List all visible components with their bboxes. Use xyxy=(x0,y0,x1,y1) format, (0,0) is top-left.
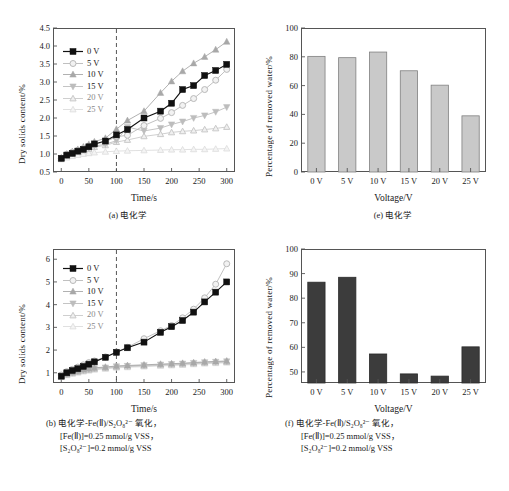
panel-f-electrochemical-fenton-bars: Percentage of removed water/% Voltage/V … xyxy=(255,237,509,491)
legend-marker-10v-icon xyxy=(62,286,84,297)
panel-e-electrochemical-bars: Percentage of removed water/% Voltage/V … xyxy=(255,0,509,225)
panel-e-ytick: 40 xyxy=(275,109,298,119)
legend-marker-0v-icon xyxy=(62,263,84,274)
panel-f-ytick: 100 xyxy=(275,244,298,254)
caption-line: [S₂O₈²⁻]=0.2 mmol/g VSS xyxy=(46,442,162,455)
panel-b-xtick: 50 xyxy=(85,387,94,397)
panel-b-ytick: 4 xyxy=(26,300,50,310)
panel-a-xtick: 200 xyxy=(165,176,178,186)
legend-item: 15 V xyxy=(62,81,104,93)
panel-f-xtick: 20 V xyxy=(431,387,448,397)
caption-line: [Fe(Ⅱ)]=0.25 mmol/g VSS， xyxy=(285,430,400,443)
panel-f-ytick: 90 xyxy=(275,269,298,279)
panel-e-xlabel: Voltage/V xyxy=(301,193,486,203)
caption-line: [Fe(Ⅱ)]=0.25 mmol/g VSS， xyxy=(46,430,162,443)
panel-a-ytick: 3.5 xyxy=(26,59,50,69)
panel-b-xtick: 200 xyxy=(165,387,178,397)
panel-f-ytick: 80 xyxy=(275,293,298,303)
panel-f-ytick: 50 xyxy=(275,367,298,377)
panel-e-xtick: 20 V xyxy=(431,176,448,186)
panel-b-xtick: 300 xyxy=(220,387,233,397)
panel-b-ytick: 5 xyxy=(26,277,50,287)
panel-a-ytick: 2.0 xyxy=(26,113,50,123)
panel-b-xlabel: Time/s xyxy=(53,404,235,414)
legend-marker-20v-icon xyxy=(62,310,84,321)
legend-item: 25 V xyxy=(62,104,104,116)
panel-f-ytick: 70 xyxy=(275,318,298,328)
legend-marker-5v-icon xyxy=(62,275,84,286)
panel-a-ytick: 1.0 xyxy=(26,149,50,159)
legend-item: 20 V xyxy=(62,92,104,104)
panel-e-xtick: 15 V xyxy=(401,176,418,186)
panel-a-ytick: 3.0 xyxy=(26,77,50,87)
legend-marker-5v-icon xyxy=(62,58,84,69)
panel-e-xtick: 25 V xyxy=(462,176,479,186)
legend-label: 10 V xyxy=(87,69,104,81)
legend-label: 5 V xyxy=(87,58,99,70)
panel-a-ytick: 0.5 xyxy=(26,167,50,177)
caption-line: [S₂O₈²⁻]=0.2 mmol/g VSS xyxy=(285,442,400,455)
panel-b-xtick: 100 xyxy=(110,387,123,397)
panel-a-xlabel: Time/s xyxy=(53,193,235,203)
legend-label: 20 V xyxy=(87,92,104,104)
legend-marker-15v-icon xyxy=(62,298,84,309)
panel-f-xtick: 15 V xyxy=(401,387,418,397)
panel-a-xtick: 150 xyxy=(138,176,151,186)
panel-a-xtick: 300 xyxy=(220,176,233,186)
panel-b-xtick: 0 xyxy=(59,387,63,397)
legend-label: 10 V xyxy=(87,286,104,298)
legend-label: 5 V xyxy=(87,275,99,287)
panel-a-electrochemical: Dry solids content/% 0 V5 V10 V15 V20 V2… xyxy=(0,0,255,225)
legend-marker-15v-icon xyxy=(62,81,84,92)
panel-a-xtick: 0 xyxy=(59,176,63,186)
panel-f-ytick: 60 xyxy=(275,342,298,352)
panel-f-xtick: 5 V xyxy=(341,387,353,397)
legend-item: 0 V xyxy=(62,263,104,275)
panel-b-xtick: 250 xyxy=(193,387,206,397)
panel-a-ytick: 4.0 xyxy=(26,41,50,51)
panel-a-legend: 0 V5 V10 V15 V20 V25 V xyxy=(62,46,104,116)
panel-b-legend: 0 V5 V10 V15 V20 V25 V xyxy=(62,263,104,333)
legend-marker-25v-icon xyxy=(62,104,84,115)
panel-a-xtick: 250 xyxy=(193,176,206,186)
panel-e-ytick: 20 xyxy=(275,138,298,148)
legend-marker-0v-icon xyxy=(62,46,84,57)
panel-a-caption: (a) 电化学 xyxy=(28,209,228,222)
panel-b-caption: (b) 电化学-Fe(Ⅱ)/S₂O₈²⁻ 氧化，[Fe(Ⅱ)]=0.25 mmo… xyxy=(46,417,162,455)
panel-e-ytick: 0 xyxy=(275,167,298,177)
panel-b-electrochemical-fenton: Dry solids content/% 0 V5 V10 V15 V20 V2… xyxy=(0,237,255,491)
panel-a-ytick: 4.5 xyxy=(26,23,50,33)
legend-label: 0 V xyxy=(87,46,99,58)
legend-label: 15 V xyxy=(87,81,104,93)
legend-marker-20v-icon xyxy=(62,93,84,104)
panel-e-caption: (e) 电化学 xyxy=(293,209,493,222)
panel-e-xtick: 0 V xyxy=(310,176,322,186)
panel-e-ytick: 60 xyxy=(275,81,298,91)
panel-a-xtick: 100 xyxy=(110,176,123,186)
legend-item: 15 V xyxy=(62,298,104,310)
panel-e-ytick: 100 xyxy=(275,23,298,33)
panel-e-ytick: 80 xyxy=(275,52,298,62)
legend-label: 25 V xyxy=(87,104,104,116)
panel-e-xtick: 5 V xyxy=(341,176,353,186)
legend-label: 15 V xyxy=(87,298,104,310)
legend-label: 25 V xyxy=(87,321,104,333)
panel-a-xtick: 50 xyxy=(85,176,94,186)
legend-label: 0 V xyxy=(87,263,99,275)
legend-item: 10 V xyxy=(62,69,104,81)
legend-marker-25v-icon xyxy=(62,321,84,332)
panel-f-xtick: 0 V xyxy=(310,387,322,397)
legend-item: 25 V xyxy=(62,321,104,333)
panel-b-ytick: 2 xyxy=(26,345,50,355)
panel-a-ytick: 2.5 xyxy=(26,95,50,105)
panel-f-xlabel: Voltage/V xyxy=(301,404,486,414)
caption-line: (f) 电化学-Fe(Ⅱ)/S₂O₈²⁻ 氧化， xyxy=(285,417,400,430)
panel-f-xtick: 10 V xyxy=(370,387,387,397)
panel-b-ytick: 6 xyxy=(26,254,50,264)
panel-b-xtick: 150 xyxy=(138,387,151,397)
panel-b-ytick: 1 xyxy=(26,368,50,378)
panel-e-xtick: 10 V xyxy=(370,176,387,186)
legend-item: 10 V xyxy=(62,286,104,298)
panel-f-xtick: 25 V xyxy=(462,387,479,397)
legend-item: 5 V xyxy=(62,275,104,287)
